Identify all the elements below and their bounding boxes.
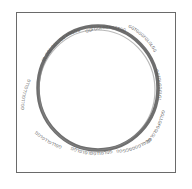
gene-label: GGLLGLLLGLLG [20, 78, 32, 110]
circular-map: GL.GGL.GLL. GG ANGOG GGFGGLGGFGGTGG GGTG… [0, 0, 192, 189]
gene-label: GL.GGL.GLL. GG ANGOG [40, 27, 80, 62]
genome-ring-inner [39, 30, 155, 150]
